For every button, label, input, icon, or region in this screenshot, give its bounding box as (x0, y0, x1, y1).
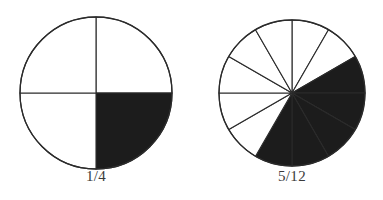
caption-pie-left: 1/4 (46, 168, 146, 185)
pie-right-diagram (219, 20, 365, 166)
caption-pie-right: 5/12 (242, 168, 342, 185)
fraction-circles-figure: 1/4 5/12 (0, 0, 383, 200)
pie-left-diagram (20, 17, 172, 169)
